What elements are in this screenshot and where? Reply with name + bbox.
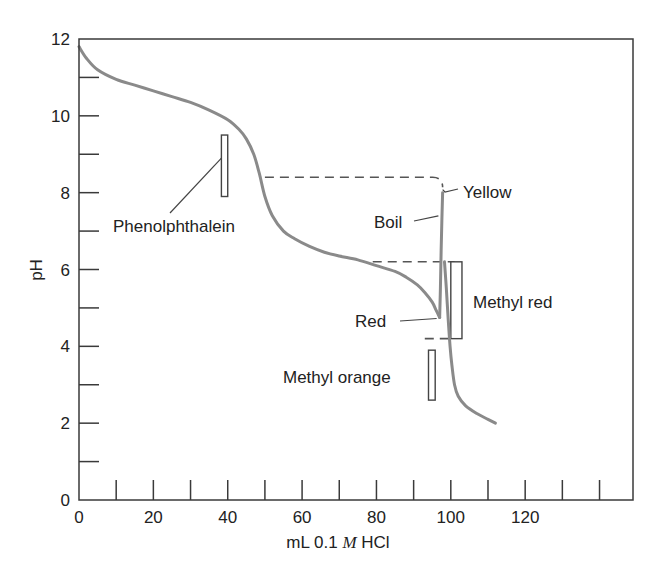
- annotation-layer: [170, 158, 458, 321]
- x-tick-label: 80: [367, 508, 386, 527]
- red-leader-line: [400, 319, 437, 321]
- boil-leader-line: [414, 216, 438, 221]
- guides-layer: [221, 135, 462, 400]
- y-tick-label: 0: [61, 491, 70, 510]
- annotation-methyl-orange: Methyl orange: [283, 368, 391, 387]
- annotation-yellow: Yellow: [463, 183, 512, 202]
- titration-chart: 020406080100120024681012 pH mL 0.1 M HCl…: [0, 0, 655, 575]
- series-after-boiling: [440, 193, 443, 318]
- phenolphthalein-endpoint-dashed-line: [265, 177, 443, 187]
- y-tick-label: 4: [61, 337, 70, 356]
- y-tick-label: 10: [51, 107, 70, 126]
- y-axis-title: pH: [27, 259, 46, 281]
- methyl-red-range-box: [451, 262, 462, 339]
- methyl-orange-range-box: [429, 350, 436, 400]
- yellow-leader-line: [443, 189, 458, 192]
- series-titration-curve: [79, 47, 440, 318]
- annotation-phenolphthalein: Phenolphthalein: [113, 217, 235, 236]
- x-tick-label: 100: [437, 508, 465, 527]
- y-tick-label: 2: [61, 414, 70, 433]
- ticks-layer: 020406080100120024681012: [51, 30, 599, 527]
- annotation-methyl-red: Methyl red: [473, 293, 552, 312]
- y-tick-label: 6: [61, 261, 70, 280]
- x-axis-title-part-1: mL 0.1: [286, 533, 342, 552]
- x-tick-label: 60: [293, 508, 312, 527]
- annotation-boil: Boil: [374, 213, 402, 232]
- y-tick-label: 8: [61, 184, 70, 203]
- x-axis-title-molar: M: [341, 533, 357, 552]
- x-tick-label: 0: [74, 508, 83, 527]
- x-axis-title-part-3: HCl: [357, 533, 390, 552]
- x-tick-label: 20: [144, 508, 163, 527]
- y-tick-label: 12: [51, 30, 70, 49]
- x-tick-label: 40: [218, 508, 237, 527]
- plot-frame: [79, 39, 633, 500]
- annotation-red: Red: [355, 312, 386, 331]
- phenolphthalein-leader-line: [170, 158, 221, 213]
- phenolphthalein-range-box: [221, 135, 227, 196]
- x-tick-label: 120: [511, 508, 539, 527]
- x-axis-title: mL 0.1 M HCl: [286, 533, 389, 552]
